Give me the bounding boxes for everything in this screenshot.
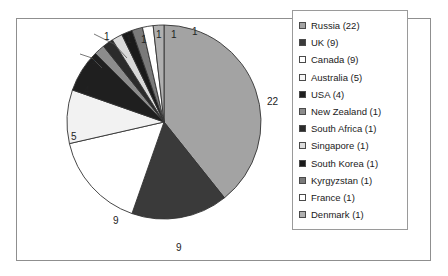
data-label-canada: 9 — [113, 215, 119, 226]
legend-item[interactable]: Kyrgyzstan (1) — [299, 172, 407, 189]
data-label-newzealand: 1 — [91, 55, 97, 66]
legend-item-label: Russia (22) — [311, 20, 360, 31]
legend-item[interactable]: South Korea (1) — [299, 155, 407, 172]
legend-item[interactable]: New Zealand (1) — [299, 103, 407, 120]
legend-item-label: Kyrgyzstan (1) — [311, 175, 372, 186]
legend-item-label: Denmark (1) — [311, 209, 364, 220]
legend-swatch-icon — [299, 177, 306, 184]
legend-item[interactable]: France (1) — [299, 189, 407, 206]
legend-item-label: Singapore (1) — [311, 140, 369, 151]
data-label-kyrgyzstan: 1 — [156, 29, 162, 40]
legend-item[interactable]: Canada (9) — [299, 51, 407, 68]
legend-item-label: South Korea (1) — [311, 158, 378, 169]
data-label-australia: 5 — [71, 131, 77, 142]
legend-swatch-icon — [299, 125, 306, 132]
legend-swatch-icon — [299, 39, 306, 46]
legend-swatch-icon — [299, 194, 306, 201]
chart-legend: Russia (22)UK (9)Canada (9)Australia (5)… — [292, 10, 408, 230]
legend-item-label: Canada (9) — [311, 54, 359, 65]
legend-item-label: South Africa (1) — [311, 123, 376, 134]
legend-swatch-icon — [299, 142, 306, 149]
legend-item[interactable]: UK (9) — [299, 34, 407, 51]
legend-item[interactable]: Russia (22) — [299, 17, 407, 34]
data-label-southafrica: 1 — [104, 31, 110, 42]
legend-item-label: New Zealand (1) — [311, 106, 381, 117]
data-label-denmark: 1 — [192, 26, 198, 37]
legend-item[interactable]: Australia (5) — [299, 69, 407, 86]
legend-swatch-icon — [299, 108, 306, 115]
data-label-uk: 9 — [176, 242, 182, 253]
legend-item-label: UK (9) — [311, 37, 338, 48]
legend-item[interactable]: Denmark (1) — [299, 206, 407, 223]
data-label-russia: 22 — [267, 96, 278, 107]
data-label-france: 1 — [171, 29, 177, 40]
legend-item-label: France (1) — [311, 192, 355, 203]
legend-swatch-icon — [299, 56, 306, 63]
data-label-singapore: 1 — [126, 34, 132, 45]
legend-item-label: USA (4) — [311, 89, 344, 100]
legend-swatch-icon — [299, 91, 306, 98]
data-label-usa: 4 — [84, 85, 90, 96]
legend-item[interactable]: South Africa (1) — [299, 120, 407, 137]
data-label-southkorea: 1 — [141, 34, 147, 45]
legend-swatch-icon — [299, 160, 306, 167]
legend-item[interactable]: USA (4) — [299, 86, 407, 103]
legend-swatch-icon — [299, 74, 306, 81]
legend-swatch-icon — [299, 211, 306, 218]
legend-swatch-icon — [299, 22, 306, 29]
legend-item[interactable]: Singapore (1) — [299, 137, 407, 154]
legend-item-label: Australia (5) — [311, 72, 362, 83]
